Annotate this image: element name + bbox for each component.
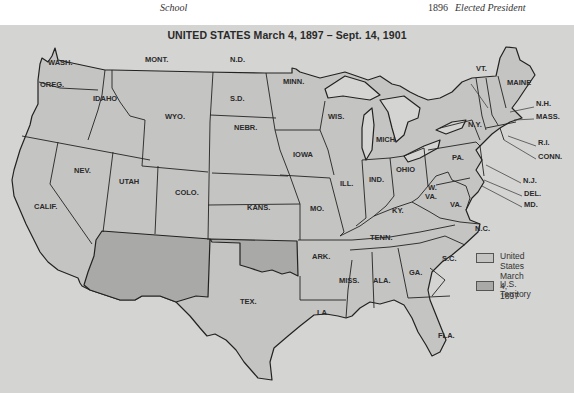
- book-page-header: School 1896 Elected President: [0, 0, 574, 25]
- state-label: N.D.: [230, 56, 245, 64]
- state-label: MINN.: [283, 78, 304, 86]
- state-label: IND.: [369, 176, 384, 184]
- state-label: VA.: [450, 201, 462, 209]
- state-label: COLO.: [175, 189, 199, 197]
- state-label: ALA.: [373, 277, 391, 285]
- legend-swatch-territory: [476, 281, 494, 291]
- state-label: VA.: [425, 193, 437, 201]
- state-label: N.Y.: [468, 121, 482, 129]
- legend-label-territory: U.S. Territory: [500, 279, 531, 299]
- state-label: MONT.: [145, 56, 168, 64]
- state-label: MO.: [310, 205, 324, 213]
- callout-label: MASS.: [536, 113, 560, 121]
- us-states-shape: [12, 47, 535, 380]
- state-label: OHIO: [396, 166, 415, 174]
- state-label: NEV.: [74, 167, 91, 175]
- state-label: KY.: [392, 207, 404, 215]
- state-label: UTAH: [119, 178, 139, 186]
- state-label: IOWA: [293, 151, 313, 159]
- state-label: CALIF.: [34, 203, 57, 211]
- state-label: WYO.: [165, 113, 185, 121]
- state-label: N.C.: [475, 225, 490, 233]
- header-year: 1896: [428, 2, 448, 13]
- callout-label: N.J.: [523, 177, 537, 185]
- state-label: IDAHO: [93, 95, 117, 103]
- state-label: MISS.: [339, 277, 359, 285]
- state-label: PA.: [452, 154, 464, 162]
- us-map-panel: UNITED STATES March 4, 1897 – Sept. 14, …: [0, 25, 574, 393]
- state-label: LA.: [317, 309, 329, 317]
- callout-label: DEL.: [524, 190, 541, 198]
- state-label: MAINE: [507, 79, 531, 87]
- territory-arizona-new-mexico: [84, 231, 210, 302]
- legend-swatch-states: [476, 253, 494, 263]
- state-label: GA.: [409, 269, 422, 277]
- legend-states-line1: United States: [500, 251, 525, 271]
- state-label: W.: [428, 184, 437, 192]
- state-label: VT.: [476, 65, 487, 73]
- callout-label: N.H.: [536, 100, 551, 108]
- state-label: FLA.: [438, 332, 455, 340]
- state-label: WIS.: [328, 113, 344, 121]
- state-label: NEBR.: [234, 124, 257, 132]
- state-label: MICH.: [376, 136, 397, 144]
- state-label: OREG.: [40, 81, 64, 89]
- map-title: UNITED STATES March 4, 1897 – Sept. 14, …: [0, 29, 574, 41]
- header-right-text: Elected President: [455, 2, 525, 13]
- header-left-text: School: [160, 2, 187, 13]
- state-label: KANS.: [247, 204, 270, 212]
- state-label: ARK.: [312, 253, 330, 261]
- state-label: ILL.: [340, 180, 353, 188]
- state-label: TENN.: [370, 234, 393, 242]
- state-label: WASH.: [48, 59, 73, 67]
- state-label: S.C.: [442, 255, 457, 263]
- callout-label: MD.: [524, 201, 538, 209]
- state-label: S.D.: [230, 95, 245, 103]
- callout-label: R.I.: [538, 139, 550, 147]
- callout-label: CONN.: [538, 153, 562, 161]
- state-label: TEX.: [240, 298, 257, 306]
